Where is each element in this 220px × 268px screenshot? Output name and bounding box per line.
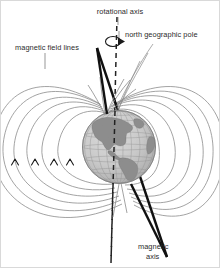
field-direction-arrow-4 bbox=[67, 159, 74, 165]
label-north-geographic-pole: north geographic pole bbox=[125, 30, 198, 39]
field-direction-arrow-3 bbox=[51, 159, 58, 165]
earth-globe bbox=[83, 111, 156, 184]
label-magnetic-axis-line2: axis bbox=[146, 252, 160, 261]
label-magnetic-field-lines: magnetic field lines bbox=[15, 43, 79, 52]
polar-strand-7 bbox=[113, 184, 119, 217]
label-rotational-axis: rotational axis bbox=[97, 7, 144, 16]
north-geographic-pole-leader-group bbox=[116, 44, 153, 112]
rotation-arrowhead bbox=[118, 38, 125, 46]
label-magnetic-axis-line1: magnetic bbox=[138, 242, 169, 251]
field-direction-arrows-group bbox=[12, 159, 74, 165]
field-direction-arrow-2 bbox=[32, 159, 39, 165]
polar-strand-6 bbox=[121, 183, 127, 213]
rotation-direction-arrow bbox=[106, 37, 126, 47]
magnetic-field-diagram: rotational axis north geographic pole ma… bbox=[0, 0, 220, 268]
diagram-canvas: rotational axis north geographic pole ma… bbox=[1, 1, 220, 268]
